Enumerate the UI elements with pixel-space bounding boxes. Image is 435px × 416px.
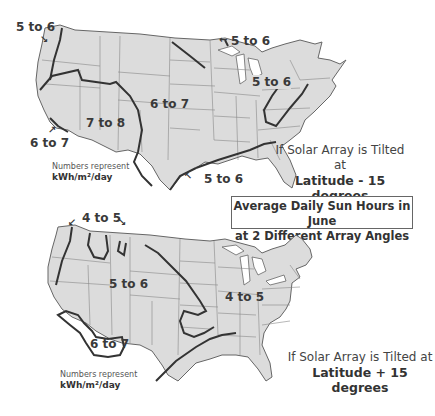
- map-latitude-plus-15: 4 to 5 ↙ ↘ 5 to 6 4 to 5 6 to 7 Numbers …: [0, 205, 435, 416]
- zone-label-lakes: 5 to 6: [231, 34, 270, 48]
- map-latitude-minus-15: 5 to 6 ↘ 5 to 6 ← 5 to 6 6 to 7 7 to 8 6…: [0, 0, 435, 200]
- zone-label-central: 6 to 7: [150, 97, 189, 111]
- zone-label-sw: 7 to 8: [86, 116, 125, 130]
- arrow-icon: ↙: [68, 217, 76, 228]
- units-note-top: Numbers represent kWh/m²/day: [52, 162, 129, 183]
- zone-label-sw: 6 to 7: [90, 337, 129, 351]
- caption-line2: Latitude + 15 degrees: [285, 365, 435, 395]
- caption-latitude-minus-15: If Solar Array is Tilted at Latitude - 1…: [275, 143, 405, 203]
- zone-label-north: 4 to 5: [82, 211, 121, 225]
- arrow-icon: ↖: [184, 170, 192, 181]
- arrow-icon: ↗: [48, 124, 56, 135]
- zone-label-east: 4 to 5: [225, 290, 264, 304]
- zone-label-west: 5 to 6: [109, 277, 148, 291]
- zone-label-gulf: 5 to 6: [204, 172, 243, 186]
- units-note-bottom: Numbers represent kWh/m²/day: [60, 370, 137, 391]
- zone-label-east: 5 to 6: [252, 75, 291, 89]
- caption-line1: If Solar Array is Tilted at: [275, 143, 405, 173]
- arrow-icon: ↘: [118, 217, 126, 228]
- zone-label-pnw: 5 to 6: [16, 20, 55, 34]
- zone-label-socal: 6 to 7: [30, 136, 69, 150]
- arrow-icon: ↘: [40, 34, 48, 45]
- caption-line1: If Solar Array is Tilted at: [285, 350, 435, 365]
- caption-latitude-plus-15: If Solar Array is Tilted at Latitude + 1…: [285, 350, 435, 395]
- arrow-icon: ←: [219, 34, 227, 45]
